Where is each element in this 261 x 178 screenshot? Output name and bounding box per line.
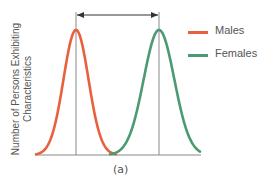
y-axis-label: Number of Persons Exhibiting Characteris… [0, 0, 44, 178]
figure-caption: (a) [113, 163, 128, 176]
y-axis-label-line-2: Characteristics [22, 23, 34, 155]
y-axis-label-line-1: Number of Persons Exhibiting [10, 23, 22, 155]
males-swatch [188, 31, 208, 34]
legend-label-males: Males [215, 24, 244, 36]
legend-label-females: Females [215, 47, 257, 59]
females-curve [110, 30, 200, 154]
females-swatch [188, 54, 208, 57]
